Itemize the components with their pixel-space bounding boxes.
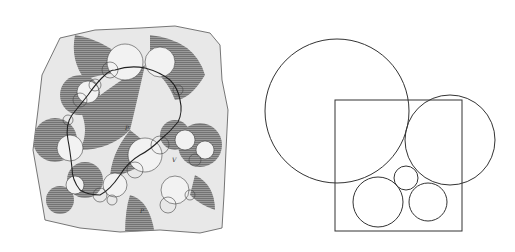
square	[335, 100, 462, 231]
large-circle	[265, 39, 409, 183]
circle-packing-engraving: P V P	[0, 0, 257, 252]
geometry-panel	[257, 0, 515, 252]
bottom-right-circle	[409, 183, 447, 221]
label-2: V	[172, 156, 177, 163]
right-circle	[405, 95, 495, 185]
engraving-panel: P V P	[0, 0, 257, 252]
square-circles-diagram	[257, 0, 515, 252]
small-top-circle	[394, 166, 418, 190]
